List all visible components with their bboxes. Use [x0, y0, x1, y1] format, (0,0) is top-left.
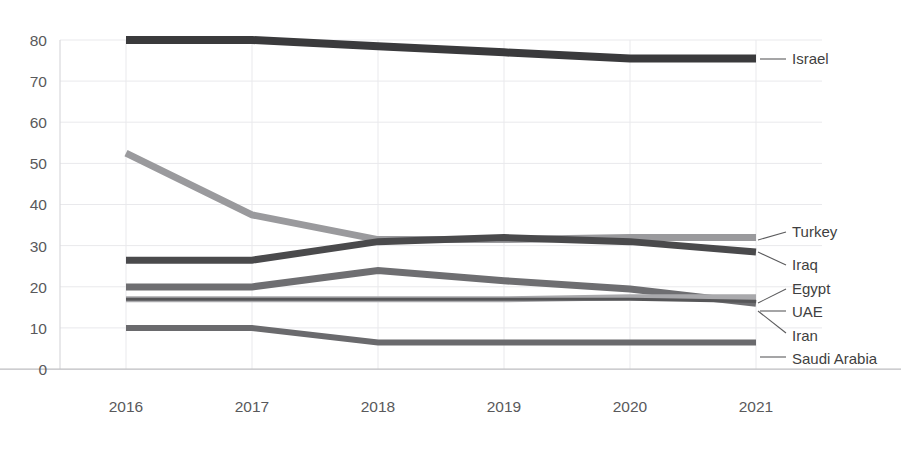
y-tick-label: 70	[30, 73, 48, 90]
series-label-iran: Iran	[792, 327, 818, 344]
x-tick-label: 2016	[109, 398, 143, 415]
y-tick-label: 60	[30, 114, 48, 131]
leader-turkey	[758, 232, 786, 240]
leader-iran	[758, 311, 786, 333]
leader-iraq	[758, 252, 786, 265]
y-axis-ticks: 80 70 60 50 40 30 20 10 0	[30, 32, 48, 378]
y-tick-label: 40	[30, 196, 48, 213]
x-tick-label: 2017	[235, 398, 269, 415]
y-tick-label: 80	[30, 32, 48, 49]
line-chart: 80 70 60 50 40 30 20 10 0 2016 2017 2018…	[0, 0, 901, 455]
y-tick-label: 10	[30, 320, 48, 337]
series-label-iraq: Iraq	[792, 256, 818, 273]
series-label-turkey: Turkey	[792, 223, 838, 240]
series-line-iraq	[126, 238, 756, 261]
series-labels: Israel Turkey Iraq Egypt UAE Iran Saudi …	[792, 50, 878, 367]
series-label-saudi-arabia: Saudi Arabia	[792, 350, 878, 367]
y-tick-label: 0	[38, 361, 47, 378]
label-leader-lines	[758, 59, 786, 357]
x-tick-label: 2019	[487, 398, 521, 415]
x-tick-label: 2021	[739, 398, 773, 415]
series-label-israel: Israel	[792, 50, 829, 67]
leader-egypt	[758, 289, 786, 303]
series-line-turkey	[126, 153, 756, 239]
y-tick-label: 50	[30, 155, 48, 172]
x-axis-ticks: 2016 2017 2018 2019 2020 2021	[109, 398, 773, 415]
series-label-egypt: Egypt	[792, 280, 831, 297]
x-tick-label: 2018	[361, 398, 395, 415]
chart-plot-area: 80 70 60 50 40 30 20 10 0 2016 2017 2018…	[0, 0, 901, 455]
series-lines	[126, 40, 756, 342]
series-line-saudi-arabia	[126, 328, 756, 342]
x-tick-label: 2020	[613, 398, 648, 415]
y-tick-label: 20	[30, 279, 48, 296]
series-line-israel	[126, 40, 756, 59]
series-label-uae: UAE	[792, 303, 823, 320]
y-tick-label: 30	[30, 238, 48, 255]
